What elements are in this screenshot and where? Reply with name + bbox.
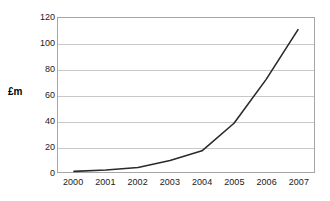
y-axis-label: £m (8, 86, 22, 98)
x-axis-tick: 2007 (279, 177, 319, 187)
y-axis-tick: 60 (26, 91, 55, 100)
x-axis-tick-labels: 20002001200220032004200520062007 (57, 177, 315, 191)
y-axis-tick: 20 (26, 143, 55, 152)
plot-area (57, 17, 315, 173)
y-axis-tick: 40 (26, 117, 55, 126)
y-axis-tick: 100 (26, 39, 55, 48)
y-axis-tick: 0 (26, 169, 55, 178)
y-axis-tick: 80 (26, 65, 55, 74)
y-axis-tick-labels: 020406080100120 (26, 12, 55, 176)
series-line (58, 18, 314, 172)
y-axis-tick: 120 (26, 13, 55, 22)
line-chart: £m 020406080100120 200020012002200320042… (0, 0, 330, 201)
